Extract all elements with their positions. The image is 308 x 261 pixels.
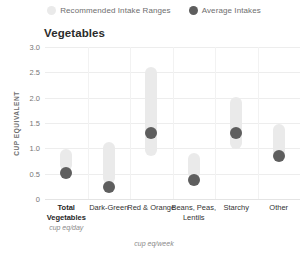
y-axis-tick-label: 1.5 [30,119,40,128]
legend-label-averages: Average Intakes [202,6,261,15]
column-divider [173,47,174,199]
average-intake-dot [230,127,242,139]
gridline [45,199,300,200]
category-unit-label: cup eq/day [40,223,92,233]
legend-item-average-intakes: Average Intakes [189,6,261,15]
legend-swatch-icon-averages [189,6,198,15]
column-divider [130,47,131,199]
column-divider [88,47,89,199]
average-intake-dot [145,127,157,139]
column-divider [258,47,259,199]
average-intake-dot [60,167,72,179]
y-axis-tick-label: 1.0 [30,144,40,153]
legend-label-ranges: Recommended Intake Ranges [60,6,171,15]
chart-title: Vegetables [44,27,105,39]
column-divider [215,47,216,199]
category-name: Starchy [224,203,249,212]
chart-legend: Recommended Intake Ranges Average Intake… [0,6,308,15]
y-axis-tick-label: 3.0 [30,43,40,52]
category-name: Other [269,203,288,212]
y-axis-tick-label: 2.5 [30,68,40,77]
group-unit-label: cup eq/week [0,240,308,247]
y-axis-tick-label: 2.0 [30,93,40,102]
legend-swatch-icon-ranges [47,6,56,15]
y-axis-tick-label: 0.5 [30,169,40,178]
vegetables-intake-chart: Recommended Intake Ranges Average Intake… [0,0,308,261]
category-name: Dark-Green [89,203,128,212]
recommended-range-bar [230,97,242,150]
average-intake-dot [188,174,200,186]
average-intake-dot [103,181,115,193]
recommended-range-bar [145,67,157,156]
plot-area: 00.51.01.52.02.53.0 [45,47,300,199]
category-name: Total Vegetables [47,203,86,222]
recommended-range-bar [103,142,115,184]
average-intake-dot [273,150,285,162]
x-axis-category-label: Other [253,203,305,213]
legend-item-recommended-intake-ranges: Recommended Intake Ranges [47,6,171,15]
y-axis-label: CUP EQUIVALENT [13,74,20,174]
